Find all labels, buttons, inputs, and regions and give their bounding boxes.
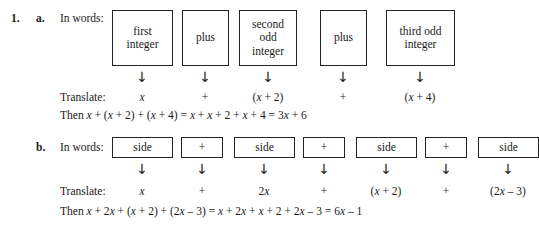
translate-label-a: Translate: bbox=[60, 92, 106, 104]
in-words-label-b: In words: bbox=[60, 142, 104, 154]
down-arrow-icon: ↓ bbox=[337, 70, 349, 84]
down-arrow-icon: ↓ bbox=[136, 70, 148, 84]
word-box-line: second bbox=[252, 18, 284, 32]
word-box: second odd integer bbox=[239, 10, 297, 66]
translate-term: (x + 2) bbox=[253, 92, 284, 104]
word-box-line: third odd bbox=[400, 25, 442, 39]
down-arrow-icon: ↓ bbox=[380, 162, 392, 176]
translate-term: + bbox=[340, 92, 347, 104]
word-box-line: first bbox=[127, 25, 159, 39]
down-arrow-icon: ↓ bbox=[440, 162, 452, 176]
down-arrow-icon: ↓ bbox=[258, 162, 270, 176]
word-box: plus bbox=[320, 10, 367, 66]
word-box-line: side bbox=[377, 141, 396, 155]
word-box-line: + bbox=[199, 141, 206, 155]
down-arrow-icon: ↓ bbox=[318, 162, 330, 176]
word-box-line: side bbox=[499, 141, 518, 155]
translate-term: (x + 2) bbox=[371, 186, 402, 198]
translate-term: 2x bbox=[259, 186, 270, 198]
then-prefix: Then bbox=[60, 205, 87, 217]
part-letter-b: b. bbox=[36, 142, 45, 154]
translate-term: (2x – 3) bbox=[490, 186, 526, 198]
word-box: side bbox=[234, 137, 295, 158]
then-expression: x + 2x + (x + 2) + (2x – 3) = x + 2x + x… bbox=[87, 205, 363, 217]
word-box-line: integer bbox=[127, 38, 159, 52]
down-arrow-icon: ↓ bbox=[502, 162, 514, 176]
then-line-b: Then x + 2x + (x + 2) + (2x – 3) = x + 2… bbox=[60, 206, 362, 218]
translate-label-b: Translate: bbox=[60, 186, 106, 198]
down-arrow-icon: ↓ bbox=[414, 70, 426, 84]
in-words-label-a: In words: bbox=[60, 13, 104, 25]
word-box-line: plus bbox=[334, 31, 353, 45]
word-box: + bbox=[425, 137, 467, 158]
problem-number: 1. bbox=[11, 13, 20, 25]
then-expression: x + (x + 2) + (x + 4) = x + x + 2 + x + … bbox=[87, 109, 307, 121]
word-box-line: + bbox=[443, 141, 450, 155]
translate-term: + bbox=[321, 186, 328, 198]
word-box-line: integer bbox=[400, 38, 442, 52]
then-line-a: Then x + (x + 2) + (x + 4) = x + x + 2 +… bbox=[60, 110, 307, 122]
word-box-line: side bbox=[255, 141, 274, 155]
translate-term: (x + 4) bbox=[405, 92, 436, 104]
part-letter-a: a. bbox=[36, 13, 45, 25]
down-arrow-icon: ↓ bbox=[262, 70, 274, 84]
word-box: + bbox=[303, 137, 345, 158]
translate-term: x bbox=[139, 92, 144, 104]
word-box: + bbox=[181, 137, 223, 158]
word-box: side bbox=[356, 137, 417, 158]
word-box-line: odd bbox=[252, 31, 284, 45]
down-arrow-icon: ↓ bbox=[136, 162, 148, 176]
translate-term: + bbox=[199, 186, 206, 198]
word-box: plus bbox=[182, 10, 229, 66]
translate-term: + bbox=[202, 92, 209, 104]
word-box-line: integer bbox=[252, 45, 284, 59]
word-box-line: side bbox=[133, 141, 152, 155]
down-arrow-icon: ↓ bbox=[196, 162, 208, 176]
word-box: side bbox=[112, 137, 173, 158]
word-box: first integer bbox=[112, 10, 173, 66]
translate-term: x bbox=[139, 186, 144, 198]
word-box: third odd integer bbox=[386, 10, 455, 66]
down-arrow-icon: ↓ bbox=[199, 70, 211, 84]
translate-term: + bbox=[443, 186, 450, 198]
word-box-line: + bbox=[321, 141, 328, 155]
word-box-line: plus bbox=[196, 31, 215, 45]
then-prefix: Then bbox=[60, 109, 87, 121]
word-box: side bbox=[478, 137, 539, 158]
